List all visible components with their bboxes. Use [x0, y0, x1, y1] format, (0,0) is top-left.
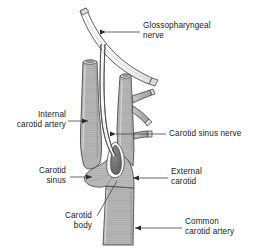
external-carotid-branch-lower [134, 131, 152, 139]
label-carotid-sinus-nerve: Carotid sinus nerve [169, 129, 259, 139]
label-glossopharyngeal-nerve: Glossopharyngeal nerve [143, 21, 255, 41]
arrow-common-carotid [135, 226, 141, 231]
internal-carotid-artery-shape [80, 60, 101, 169]
arrow-carotid-sinus-nerve [110, 132, 116, 137]
external-carotid-branch-upper [132, 89, 155, 103]
label-external-carotid: External carotid [171, 167, 243, 187]
label-carotid-body: Carotid body [28, 211, 92, 231]
arrow-glossopharyngeal [100, 30, 106, 35]
label-common-carotid-artery: Common carotid artery [185, 217, 259, 237]
anatomy-figure: Glossopharyngeal nerve Internal carotid … [0, 0, 259, 251]
common-carotid-artery-shape [103, 186, 134, 245]
label-carotid-sinus: Carotid sinus [4, 166, 66, 186]
label-internal-carotid-artery: Internal carotid artery [2, 110, 66, 130]
external-carotid-branch-middle [132, 106, 152, 126]
